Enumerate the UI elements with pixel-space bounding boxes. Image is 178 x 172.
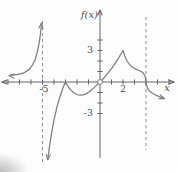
open-point xyxy=(98,80,103,85)
branch-left-of-asymptote-arrow-start xyxy=(9,74,14,78)
y-tick-label--3: -3 xyxy=(84,107,93,118)
textbook-figure: f(x)x-523-3 xyxy=(0,0,178,172)
x-tick-label-2: 2 xyxy=(120,83,126,94)
branch-left-of-asymptote xyxy=(9,23,41,75)
function-graph: f(x)x-523-3 xyxy=(0,0,178,172)
branch-main xyxy=(48,51,165,160)
y-tick-label-3: 3 xyxy=(87,44,93,55)
x-axis-title: x xyxy=(164,82,170,93)
x-tick-label--5: -5 xyxy=(39,83,48,94)
y-axis-title: f(x) xyxy=(80,9,98,20)
